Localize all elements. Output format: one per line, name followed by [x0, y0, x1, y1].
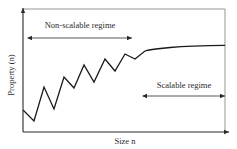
chart-canvas: Non-scalable regime Scalable regime Size… — [0, 0, 237, 149]
y-axis-label: Property (n) — [6, 54, 16, 95]
scalable-label: Scalable regime — [157, 80, 212, 90]
x-axis-label: Size n — [114, 136, 136, 146]
non-scalable-label: Non-scalable regime — [45, 20, 116, 30]
